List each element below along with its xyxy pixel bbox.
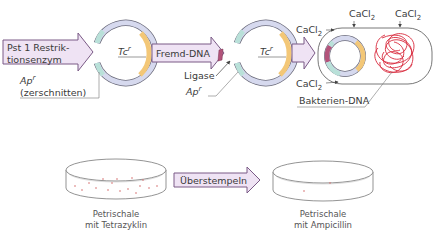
cacl2-label-top-middle: CaCl2 bbox=[349, 8, 375, 22]
cloning-diagram: Pst 1 Restrik- tionsenzym Tcr Apr (zersc… bbox=[0, 0, 437, 242]
replica-plating-label: Überstempeln bbox=[180, 175, 247, 186]
ap-resistance-label-2: Apr bbox=[185, 85, 203, 97]
foreign-dna-label: Fremd-DNA bbox=[156, 48, 210, 59]
tc-resistance-label: Tcr bbox=[118, 45, 132, 57]
tc-resistance-label-2: Tcr bbox=[260, 45, 274, 57]
restriction-enzyme-label-2: tionsenzym bbox=[7, 54, 62, 65]
dish1-caption-line1: Petrischale bbox=[93, 209, 140, 219]
foreign-dna-fragment bbox=[218, 49, 223, 61]
ap-cut-callout: Apr (zerschnitten) bbox=[19, 72, 99, 98]
ligase-callout: Ligase bbox=[184, 61, 230, 81]
petri-dish-tetracycline: Petrischale mit Tetrazyklin bbox=[66, 159, 166, 230]
cacl2-label-left-top: CaCl2 bbox=[296, 24, 322, 38]
ligase-label: Ligase bbox=[184, 70, 215, 81]
plasmid-cut: Tcr bbox=[97, 23, 155, 83]
replica-plating-arrow: Überstempeln bbox=[174, 167, 260, 193]
dish2-caption-line2: mit Ampicillin bbox=[294, 220, 352, 230]
ap-cut-note: (zerschnitten) bbox=[20, 87, 86, 98]
restriction-enzyme-arrow: Pst 1 Restrik- tionsenzym bbox=[3, 33, 93, 71]
restriction-enzyme-label-1: Pst 1 Restrik- bbox=[7, 42, 70, 53]
ap-resistance-label: Apr bbox=[19, 74, 37, 86]
cacl2-label-top-right: CaCl2 bbox=[395, 8, 421, 22]
dish2-caption-line1: Petrischale bbox=[300, 209, 347, 219]
cacl2-label-left-bottom: CaCl2 bbox=[296, 78, 322, 92]
dish1-caption-line2: mit Tetrazyklin bbox=[85, 220, 147, 230]
bacteria-dna-label: Bakterien-DNA bbox=[299, 95, 370, 106]
petri-dish-ampicillin: Petrischale mit Ampicillin bbox=[273, 161, 373, 230]
foreign-dna-arrow: Fremd-DNA bbox=[152, 37, 224, 69]
plasmid-with-insert-site: Tcr bbox=[237, 23, 295, 83]
